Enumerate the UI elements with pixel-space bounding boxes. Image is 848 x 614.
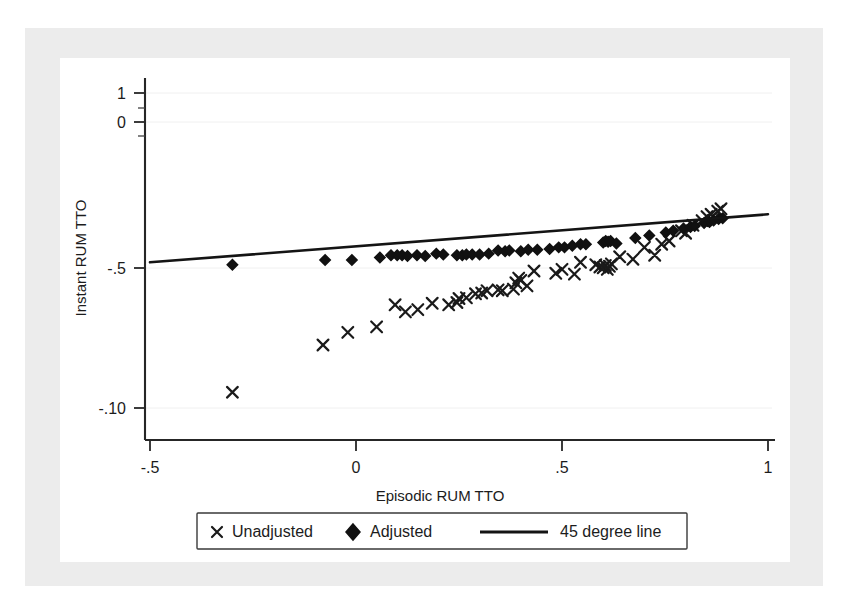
data-point-adjusted	[438, 249, 448, 259]
data-point-unadjusted	[427, 298, 438, 309]
legend-label-unadjusted: Unadjusted	[232, 523, 313, 540]
legend-entry-unadjusted[interactable]: Unadjusted	[212, 523, 313, 540]
y-axis-title: Instant RUM TTO	[72, 200, 89, 317]
data-point-adjusted	[320, 255, 330, 265]
data-series-layer	[227, 203, 728, 397]
data-point-adjusted	[644, 230, 654, 240]
data-point-unadjusted	[639, 242, 650, 253]
data-point-unadjusted	[649, 250, 660, 261]
data-point-unadjusted	[569, 269, 580, 280]
data-point-unadjusted	[342, 327, 353, 338]
gridlines	[145, 93, 772, 408]
screenshot-page: 1 0 -.5 -.10 -.5 0 .5 1 Episodic RUM TTO…	[0, 0, 848, 614]
data-point-adjusted	[420, 251, 430, 261]
legend-label-adjusted: Adjusted	[370, 523, 432, 540]
data-point-unadjusted	[529, 266, 540, 277]
data-point-unadjusted	[628, 254, 639, 265]
data-point-unadjusted	[318, 340, 329, 351]
data-point-adjusted	[544, 244, 554, 254]
x-tick-label-0: -.5	[141, 459, 160, 476]
legend-label-45-degree-line: 45 degree line	[560, 523, 662, 540]
y-tick-label-0: 1	[117, 85, 126, 102]
data-point-unadjusted	[614, 251, 625, 262]
data-point-unadjusted	[575, 257, 586, 268]
legend-entry-reference-line[interactable]: 45 degree line	[480, 523, 662, 540]
data-point-adjusted	[347, 255, 357, 265]
series-adjusted	[227, 213, 728, 270]
diamond-marker-icon	[346, 524, 360, 540]
legend-entry-adjusted[interactable]: Adjusted	[346, 523, 432, 540]
y-tick-label-1: 0	[117, 114, 126, 131]
data-point-unadjusted	[371, 322, 382, 333]
scatter-chart: 1 0 -.5 -.10 -.5 0 .5 1 Episodic RUM TTO…	[60, 58, 790, 562]
data-point-unadjusted	[227, 387, 238, 398]
y-tick-label-3: -.10	[98, 400, 126, 417]
y-tick-label-2: -.5	[107, 260, 126, 277]
data-point-unadjusted	[400, 307, 411, 318]
data-point-unadjusted	[390, 299, 401, 310]
data-point-adjusted	[532, 245, 542, 255]
x-marker-icon	[212, 527, 222, 537]
x-tick-label-1: 0	[352, 459, 361, 476]
data-point-adjusted	[375, 252, 385, 262]
data-point-unadjusted	[522, 281, 533, 292]
x-axis-ticks	[150, 440, 768, 451]
data-point-unadjusted	[443, 299, 454, 310]
x-tick-label-2: .5	[555, 459, 568, 476]
chart-svg: 1 0 -.5 -.10 -.5 0 .5 1 Episodic RUM TTO…	[60, 58, 790, 562]
x-tick-label-3: 1	[764, 459, 773, 476]
data-point-unadjusted	[412, 304, 423, 315]
chart-legend: Unadjusted Adjusted 45 degree line	[197, 513, 687, 549]
y-axis-ticks	[134, 93, 145, 408]
x-axis-title: Episodic RUM TTO	[376, 487, 505, 504]
